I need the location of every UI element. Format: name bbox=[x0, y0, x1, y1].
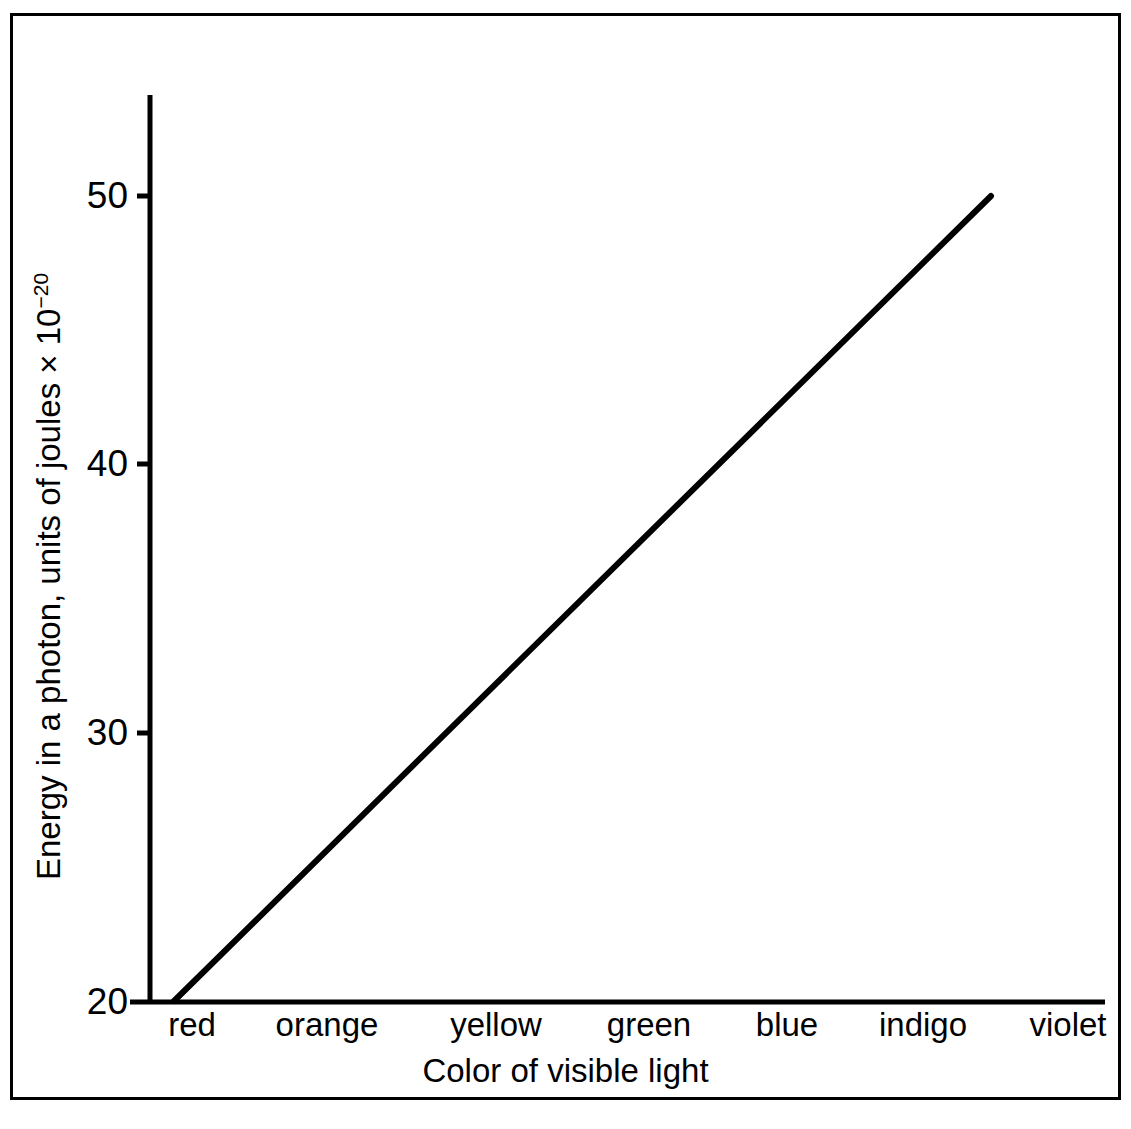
y-tick-label-40: 40 bbox=[60, 445, 128, 483]
x-tick-label-blue: blue bbox=[756, 1006, 818, 1044]
x-tick-label-orange: orange bbox=[276, 1006, 379, 1044]
y-tick-label-50: 50 bbox=[60, 177, 128, 215]
y-tick-label-20: 20 bbox=[60, 983, 128, 1021]
x-tick-label-indigo: indigo bbox=[879, 1006, 967, 1044]
x-tick-label-violet: violet bbox=[1029, 1006, 1106, 1044]
figure-border bbox=[10, 13, 1121, 1100]
y-tick-label-30: 30 bbox=[60, 714, 128, 752]
chart-page: Energy in a photon, units of joules × 10… bbox=[0, 0, 1131, 1129]
x-tick-label-green: green bbox=[607, 1006, 691, 1044]
y-axis-title-exponent: −20 bbox=[29, 273, 52, 309]
x-tick-label-red: red bbox=[168, 1006, 216, 1044]
x-tick-label-yellow: yellow bbox=[450, 1006, 542, 1044]
y-axis-title-text: Energy in a photon, units of joules × 10 bbox=[30, 309, 67, 880]
x-axis-title: Color of visible light bbox=[0, 1052, 1131, 1090]
